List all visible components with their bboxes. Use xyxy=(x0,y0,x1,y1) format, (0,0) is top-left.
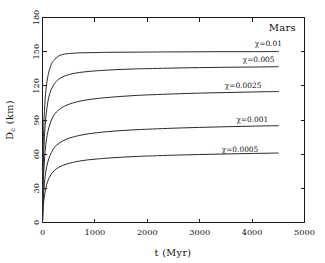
series-inline-labels: χ=0.01χ=0.005χ=0.0025χ=0.001χ=0.0005 xyxy=(222,39,282,154)
chart-plot-svg: 010002000300040005000 0306090120150180 χ… xyxy=(0,0,325,263)
x-axis-tick-labels: 010002000300040005000 xyxy=(40,227,315,237)
y-tick-label-2: 60 xyxy=(31,149,41,159)
y-axis-title-unit: (km) xyxy=(4,100,15,124)
x-tick-label-3: 3000 xyxy=(189,227,210,237)
x-tick-label-0: 0 xyxy=(40,227,45,237)
y-tick-label-1: 30 xyxy=(31,183,41,193)
x-tick-label-4: 4000 xyxy=(242,227,263,237)
x-tick-label-5: 5000 xyxy=(294,227,315,237)
data-curves xyxy=(43,52,279,223)
y-tick-label-0: 0 xyxy=(31,220,41,225)
series-label-0: χ=0.01 xyxy=(255,39,282,48)
curve-chi-0-001 xyxy=(43,126,279,223)
y-tick-label-6: 180 xyxy=(31,10,41,26)
series-label-3: χ=0.001 xyxy=(236,115,268,124)
series-label-2: χ=0.0025 xyxy=(225,81,262,90)
y-axis-title-base: D xyxy=(4,132,15,140)
series-label-1: χ=0.005 xyxy=(243,55,275,64)
plot-annotation-mars: Mars xyxy=(269,22,296,33)
y-axis-tick-labels: 0306090120150180 xyxy=(31,10,41,225)
y-tick-label-5: 150 xyxy=(31,44,41,60)
curve-chi-0-01 xyxy=(43,52,279,223)
series-label-4: χ=0.0005 xyxy=(222,145,259,154)
curve-chi-0-0025 xyxy=(43,92,279,223)
x-tick-label-1: 1000 xyxy=(84,227,105,237)
y-axis-title: Dc (km) xyxy=(4,100,17,140)
x-axis-title: t (Myr) xyxy=(154,247,191,258)
y-tick-label-3: 90 xyxy=(31,115,41,125)
y-tick-label-4: 120 xyxy=(31,78,41,94)
x-tick-label-2: 2000 xyxy=(137,227,158,237)
chart-figure: 010002000300040005000 0306090120150180 χ… xyxy=(0,0,325,263)
curve-chi-0-0005 xyxy=(43,153,279,222)
